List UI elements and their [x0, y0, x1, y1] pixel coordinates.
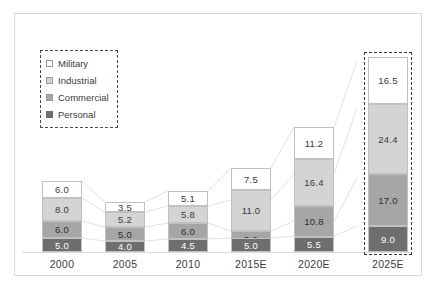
- bar-segment-industrial[interactable]: 11.0: [231, 190, 271, 231]
- chart-legend: Military Industrial Commercial Personal: [40, 50, 118, 128]
- bar-segment-industrial[interactable]: 5.2: [105, 212, 145, 227]
- category-label-2025E: 2025E: [356, 258, 420, 270]
- bar-segment-personal[interactable]: 4.0: [105, 241, 145, 252]
- chart-screenshot: 6.0 8.0 6.0 5.0 3.5 5.2 5.0 4.0 5.1 5.8 …: [0, 0, 437, 291]
- axis-baseline: [22, 252, 412, 253]
- bar-segment-commercial[interactable]: 10.8: [294, 206, 334, 237]
- bar-segment-commercial[interactable]: 6.0: [42, 221, 82, 238]
- bar-segment-military[interactable]: 7.5: [231, 168, 271, 190]
- legend-label: Personal: [58, 109, 96, 120]
- legend-item-commercial[interactable]: Commercial: [46, 89, 112, 106]
- legend-label: Commercial: [58, 92, 109, 103]
- category-label-2010: 2010: [156, 258, 220, 270]
- bar-segment-industrial[interactable]: 24.4: [368, 104, 408, 174]
- category-label-2020E: 2020E: [282, 258, 346, 270]
- bar-segment-military[interactable]: 6.0: [42, 181, 82, 198]
- bar-segment-personal[interactable]: 4.5: [168, 239, 208, 252]
- bar-segment-commercial[interactable]: 6.0: [168, 223, 208, 239]
- bar-segment-personal[interactable]: 5.0: [42, 238, 82, 252]
- plot-area: 6.0 8.0 6.0 5.0 3.5 5.2 5.0 4.0 5.1 5.8 …: [0, 0, 437, 291]
- legend-item-personal[interactable]: Personal: [46, 106, 112, 123]
- bar-segment-personal[interactable]: 9.0: [368, 226, 408, 252]
- legend-label: Military: [58, 58, 88, 69]
- legend-label: Industrial: [58, 75, 97, 86]
- bar-segment-industrial[interactable]: 8.0: [42, 198, 82, 221]
- bar-segment-industrial[interactable]: 5.8: [168, 206, 208, 223]
- legend-item-industrial[interactable]: Industrial: [46, 72, 112, 89]
- bar-segment-personal[interactable]: 5.0: [231, 238, 271, 252]
- bar-segment-military[interactable]: 16.5: [368, 57, 408, 104]
- bar-segment-military[interactable]: 5.1: [168, 191, 208, 206]
- bar-segment-commercial[interactable]: 5.0: [105, 227, 145, 241]
- legend-item-military[interactable]: Military: [46, 55, 112, 72]
- bar-segment-military[interactable]: 11.2: [294, 127, 334, 159]
- category-label-2005: 2005: [93, 258, 157, 270]
- bar-segment-personal[interactable]: 5.5: [294, 237, 334, 252]
- legend-swatch-icon: [46, 94, 53, 101]
- legend-swatch-icon: [46, 60, 53, 67]
- category-label-2015E: 2015E: [219, 258, 283, 270]
- legend-swatch-icon: [46, 111, 53, 118]
- bar-segment-industrial[interactable]: 16.4: [294, 159, 334, 206]
- category-label-2000: 2000: [30, 258, 94, 270]
- legend-swatch-icon: [46, 77, 53, 84]
- bar-segment-military[interactable]: 3.5: [105, 202, 145, 212]
- bar-segment-commercial[interactable]: 17.0: [368, 174, 408, 226]
